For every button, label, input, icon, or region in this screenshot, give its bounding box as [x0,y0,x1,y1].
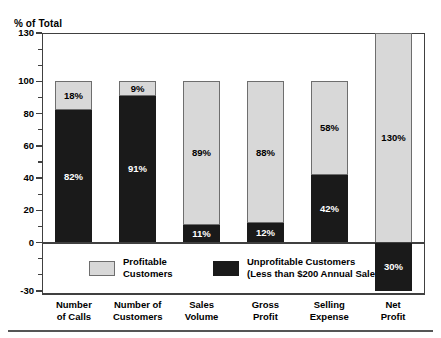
legend-entry-unprofitable: Unprofitable Customers (Less than $200 A… [213,256,383,280]
chart-legend: Profitable Customers Unprofitable Custom… [43,244,424,294]
footer-divider [8,330,433,332]
bar-segment-label: 88% [256,148,275,158]
y-axis-tick-label: 40 [2,173,34,183]
legend-label-unprofitable: Unprofitable Customers (Less than $200 A… [247,256,383,280]
y-axis-tick-label: 20 [2,205,34,215]
bar-segment: 88% [247,81,284,223]
x-axis-tick-label: NetProfit [361,299,425,323]
x-axis-tick-label-line: Number of [106,299,170,311]
x-axis-tick-label-line: Expense [297,311,361,323]
chart-container: % of Total 130100806040200-30 18%82%9%91… [0,0,441,338]
y-axis-minor-tick [38,226,42,227]
bar-segment-label: 9% [131,84,145,94]
x-axis-tick-label-line: Sales [170,299,234,311]
y-axis-minor-tick [38,161,42,162]
y-axis-tick [36,81,42,83]
bar-segment-label: 18% [64,91,83,101]
x-axis-tick-label-line: Volume [170,311,234,323]
x-axis-tick-label-line: Customers [106,311,170,323]
x-axis-tick-label-line: Number [42,299,106,311]
x-axis-tick-label-line: Profit [361,311,425,323]
y-axis-minor-tick [38,129,42,130]
x-axis-tick-label-line: Profit [234,311,298,323]
bar-segment: 130% [375,33,412,243]
y-axis-tick-label: 0 [2,238,34,248]
bar-segment-label: 58% [320,123,339,133]
y-axis-minor-tick [38,258,42,259]
bar-segment: 11% [183,225,220,243]
y-axis-tick [36,145,42,147]
bar-segment: 91% [119,96,156,243]
bar-segment-label: 91% [128,164,147,174]
y-axis-tick-label: 130 [2,28,34,38]
bar-segment: 9% [119,81,156,96]
y-axis-tick [36,290,42,292]
bar-segment: 30% [375,243,412,291]
y-axis-tick-label: 100 [2,76,34,86]
x-axis-tick-label: GrossProfit [234,299,298,323]
legend-label-profitable: Profitable Customers [123,256,173,280]
bar-segment: 42% [311,175,348,243]
bar-segment: 12% [247,223,284,242]
y-axis-tick [36,32,42,34]
y-axis-minor-tick [38,194,42,195]
x-axis-tick-label: Numberof Calls [42,299,106,323]
x-axis-tick-label: SellingExpense [297,299,361,323]
y-axis-minor-tick [38,274,42,275]
x-axis-tick-label-line: Net [361,299,425,311]
y-axis-minor-tick [38,97,42,98]
x-axis-tick-label: SalesVolume [170,299,234,323]
bar-segment-label: 42% [320,204,339,214]
x-axis-tick-label-line: Gross [234,299,298,311]
y-axis-tick [36,177,42,179]
bar-segment-label: 89% [192,148,211,158]
legend-swatch-profitable-icon [89,261,115,276]
y-axis-tick-label: 60 [2,141,34,151]
bar-segment-label: 82% [64,172,83,182]
y-axis-tick-label: 80 [2,109,34,119]
x-axis-tick-label: Number ofCustomers [106,299,170,323]
bar-segment-label: 12% [256,228,275,238]
y-axis-tick [36,113,42,115]
y-axis-tick [36,210,42,212]
bar-segment: 58% [311,81,348,174]
y-axis-minor-tick [38,49,42,50]
legend-swatch-unprofitable-icon [213,261,239,276]
x-axis-tick-label-line: of Calls [42,311,106,323]
bar-segment: 18% [55,81,92,110]
bar-segment-label: 30% [384,262,403,272]
bar-segment-label: 11% [192,229,211,239]
bar-segment-label: 130% [381,133,405,143]
legend-entry-profitable: Profitable Customers [89,256,173,280]
y-axis-tick-label: -30 [2,286,34,296]
y-axis-minor-tick [38,65,42,66]
bar-segment: 89% [183,81,220,224]
x-axis-tick-label-line: Selling [297,299,361,311]
bar-segment: 82% [55,110,92,242]
